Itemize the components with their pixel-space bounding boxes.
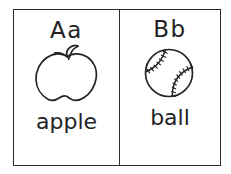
flashcard-a[interactable]: Aa apple bbox=[14, 10, 120, 165]
flashcard-sheet: Aa apple Bb bbox=[0, 0, 231, 174]
baseball-line-drawing bbox=[143, 46, 197, 100]
word-label-apple: apple bbox=[36, 111, 97, 133]
apple-line-drawing bbox=[31, 44, 103, 106]
word-label-ball: ball bbox=[150, 107, 190, 129]
letter-pair-b: Bb bbox=[153, 18, 186, 41]
letter-pair-a: Aa bbox=[50, 19, 83, 42]
flashcard-frame: Aa apple Bb bbox=[13, 9, 221, 166]
flashcard-b[interactable]: Bb bbox=[120, 10, 220, 165]
